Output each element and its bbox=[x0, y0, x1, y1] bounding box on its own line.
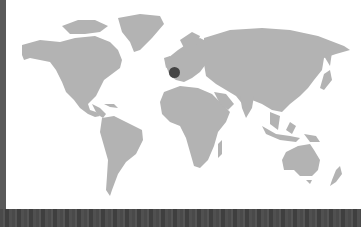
world-map-svg bbox=[6, 0, 361, 210]
continent-australia bbox=[282, 144, 320, 176]
continent-greenland bbox=[118, 14, 164, 52]
world-map[interactable] bbox=[6, 0, 361, 210]
location-marker[interactable] bbox=[169, 67, 180, 78]
continent-south-america bbox=[100, 116, 143, 196]
bottom-strip bbox=[0, 209, 361, 227]
